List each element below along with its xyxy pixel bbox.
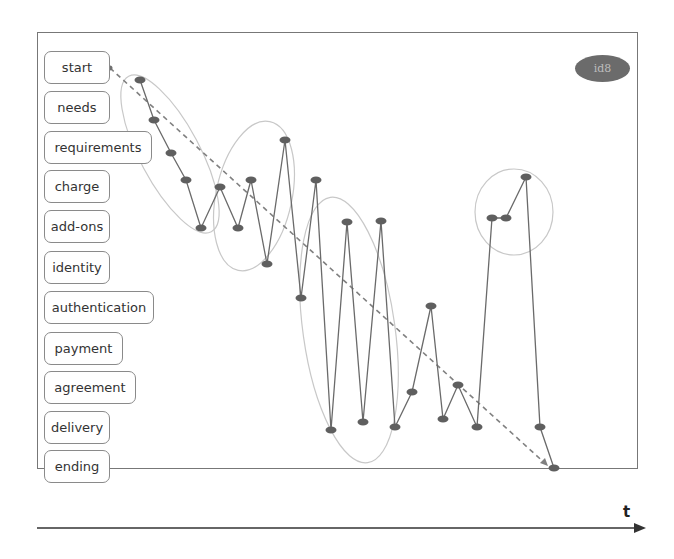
journey-node <box>181 177 192 184</box>
journey-node <box>246 177 257 184</box>
journey-node <box>426 303 437 310</box>
journey-node <box>280 137 291 144</box>
user-journey-path <box>140 80 554 468</box>
journey-node <box>296 295 307 302</box>
stage-label-charge: charge <box>44 170 110 203</box>
journey-node <box>549 465 560 472</box>
journey-node <box>342 219 353 226</box>
cluster-ellipse-4 <box>475 169 553 255</box>
journey-node <box>438 416 449 423</box>
stage-label-payment: payment <box>44 332 123 365</box>
journey-node <box>215 184 226 191</box>
stage-label-start: start <box>44 51 110 84</box>
journey-node <box>376 218 387 225</box>
journey-node <box>535 424 546 431</box>
stage-label-needs: needs <box>44 91 110 124</box>
stage-label-agreement: agreement <box>44 371 136 404</box>
journey-nodes <box>135 77 560 472</box>
journey-node <box>196 225 207 232</box>
stage-label-ending: ending <box>44 450 110 483</box>
trend-arrowhead <box>540 458 548 466</box>
journey-node <box>501 215 512 222</box>
time-axis-label: t <box>623 503 630 521</box>
journey-node <box>407 389 418 396</box>
stage-label-authentication: authentication <box>44 291 154 324</box>
stage-label-add-ons: add-ons <box>44 210 110 243</box>
journey-node <box>390 424 401 431</box>
journey-node <box>233 225 244 232</box>
journey-node <box>472 424 483 431</box>
journey-node <box>166 150 177 157</box>
id-badge: id8 <box>575 55 630 82</box>
time-axis-arrowhead <box>634 523 646 533</box>
journey-node <box>453 382 464 389</box>
journey-node <box>521 174 532 181</box>
journey-node <box>358 419 369 426</box>
journey-node <box>326 427 337 434</box>
journey-node <box>135 77 146 84</box>
journey-node <box>487 215 498 222</box>
journey-node <box>262 261 273 268</box>
journey-node <box>149 117 160 124</box>
stage-label-identity: identity <box>44 251 110 284</box>
stage-label-delivery: delivery <box>44 411 110 444</box>
stage-label-requirements: requirements <box>44 131 152 164</box>
journey-node <box>311 177 322 184</box>
